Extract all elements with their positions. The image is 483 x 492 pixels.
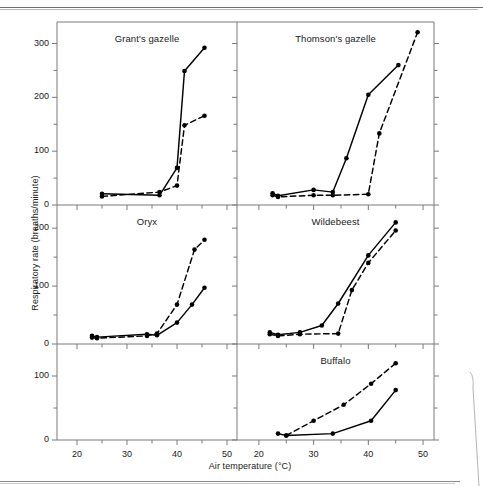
series-line-solid	[92, 288, 205, 337]
data-point	[192, 247, 197, 252]
x-tick-label-20: 20	[247, 449, 271, 459]
series-line-solid	[273, 65, 399, 196]
data-point	[393, 228, 398, 233]
data-point	[415, 30, 420, 35]
panel-top-right	[232, 22, 439, 210]
panel-title-bottom-right: Buffalo	[276, 355, 396, 366]
panel-axes	[237, 22, 434, 205]
plot-canvas	[0, 0, 483, 492]
data-point	[366, 261, 371, 266]
y-tick-label-200: 200	[23, 222, 49, 232]
data-point	[366, 253, 371, 258]
x-tick-label-40: 40	[165, 449, 189, 459]
panel-bottom-left	[52, 344, 237, 445]
data-point	[182, 69, 187, 74]
series-line-solid	[278, 390, 396, 435]
data-point	[336, 301, 341, 306]
x-tick-label-50: 50	[215, 449, 239, 459]
panel-top-left	[52, 22, 237, 210]
data-point	[377, 131, 382, 136]
data-point	[369, 381, 374, 386]
x-tick-label-20: 20	[65, 449, 89, 459]
series-line-dashed	[286, 363, 395, 435]
panel-title-middle-left: Oryx	[87, 216, 207, 227]
data-point	[276, 195, 281, 200]
panel-axes	[57, 22, 237, 205]
y-tick-label-0: 0	[23, 338, 49, 348]
data-point	[175, 302, 180, 307]
data-point	[311, 193, 316, 198]
data-point	[90, 335, 95, 340]
data-point	[182, 123, 187, 128]
series-line-dashed	[270, 231, 396, 336]
x-tick-label-50: 50	[411, 449, 435, 459]
data-point	[270, 193, 275, 198]
data-point	[344, 156, 349, 161]
y-tick-label-100: 100	[23, 280, 49, 290]
data-point	[202, 238, 207, 243]
y-tick-label-100: 100	[23, 145, 49, 155]
panel-title-top-right: Thomson's gazelle	[276, 33, 396, 44]
data-point	[366, 192, 371, 197]
data-point	[298, 332, 303, 337]
data-point	[393, 388, 398, 393]
data-point	[284, 433, 289, 438]
data-point	[336, 331, 341, 336]
y-tick-label-300: 300	[23, 38, 49, 48]
x-tick-label-30: 30	[302, 449, 326, 459]
data-point	[341, 403, 346, 408]
series-line-dashed	[102, 116, 205, 197]
data-point	[202, 46, 207, 51]
series-line-dashed	[273, 32, 418, 197]
series-line-solid	[102, 48, 205, 196]
data-point	[276, 334, 281, 339]
series-line-dashed	[92, 240, 205, 338]
y-tick-label-100: 100	[23, 370, 49, 380]
data-point	[145, 334, 150, 339]
data-point	[175, 183, 180, 188]
data-point	[157, 190, 162, 195]
data-point	[190, 302, 195, 307]
data-point	[95, 336, 100, 341]
data-point	[175, 320, 180, 325]
y-tick-label-0: 0	[23, 434, 49, 444]
data-point	[202, 113, 207, 118]
data-point	[331, 193, 336, 198]
figure-respiratory-rate-vs-air-temperature: Respiratory rate (breaths/minute) Air te…	[0, 0, 483, 492]
data-point	[276, 431, 281, 436]
panel-axes	[57, 344, 237, 440]
data-point	[366, 92, 371, 97]
y-tick-label-200: 200	[23, 91, 49, 101]
data-point	[155, 331, 160, 336]
panel-title-top-left: Grant's gazelle	[87, 33, 207, 44]
data-point	[350, 288, 355, 293]
data-point	[268, 332, 273, 337]
data-point	[311, 419, 316, 424]
x-tick-label-30: 30	[115, 449, 139, 459]
data-point	[311, 188, 316, 193]
data-point	[396, 63, 401, 68]
data-point	[331, 431, 336, 436]
x-tick-label-40: 40	[356, 449, 380, 459]
data-point	[320, 323, 325, 328]
data-point	[202, 286, 207, 291]
y-tick-label-0: 0	[23, 199, 49, 209]
data-point	[369, 419, 374, 424]
panel-title-middle-right: Wildebeest	[276, 216, 396, 227]
data-point	[100, 194, 105, 199]
series-line-solid	[270, 222, 396, 334]
